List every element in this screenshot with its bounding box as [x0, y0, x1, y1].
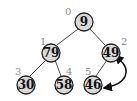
node-value-4: 58	[56, 78, 73, 92]
heap-node-3: 3 30	[15, 66, 35, 94]
heap-node-4: 4 58	[55, 66, 73, 94]
node-value-2: 49	[103, 46, 120, 60]
edge-1-3	[30, 60, 46, 76]
node-value-3: 30	[18, 78, 35, 92]
edge-1-4	[55, 60, 61, 76]
index-label-3: 3	[15, 66, 21, 77]
swap-arrow	[104, 60, 126, 88]
index-label-4: 4	[66, 66, 72, 77]
node-value-5: 46	[85, 78, 102, 92]
edge-2-5	[96, 60, 107, 76]
heap-node-0: 0 9	[65, 6, 93, 31]
node-value-0: 9	[80, 15, 88, 29]
edge-0-2	[90, 29, 105, 45]
edge-0-1	[57, 29, 78, 45]
heap-node-2: 2 49	[102, 36, 127, 62]
heap-node-5: 5 46	[84, 66, 102, 94]
index-label-2: 2	[121, 36, 127, 47]
heap-node-1: 1 79	[40, 36, 60, 62]
heap-diagram: 0 9 1 79 2 49 3 30 4 58 5 46	[0, 0, 137, 101]
index-label-0: 0	[65, 6, 71, 17]
index-label-5: 5	[85, 66, 91, 77]
node-value-1: 79	[43, 46, 60, 60]
